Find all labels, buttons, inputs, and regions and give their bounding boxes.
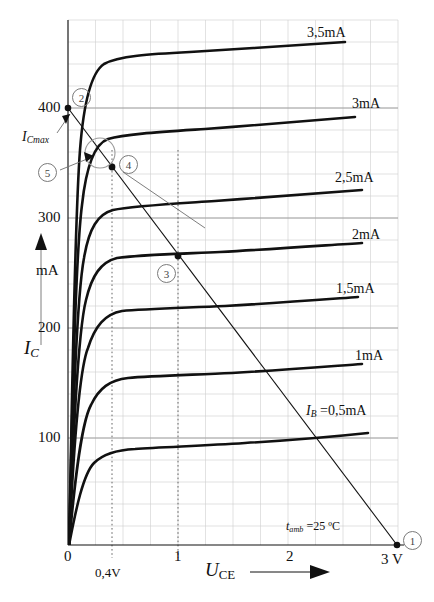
y-tick-300: 300 (38, 210, 61, 225)
y-axis-arrowhead (35, 233, 47, 250)
marker-dot-2 (65, 105, 72, 112)
callout-1[interactable]: 1 (403, 531, 422, 550)
curve-label-1.5mA: 1,5mA (336, 282, 375, 296)
y-tick-400: 400 (38, 100, 61, 115)
x-axis-symbol: UCE (205, 560, 235, 582)
arrowhead-icmax (62, 114, 70, 124)
callout-4[interactable]: 4 (119, 155, 138, 174)
x-tick-3V: 3 V (381, 552, 403, 567)
marker-dot-1 (394, 542, 401, 549)
highlight-circle-saturation (85, 138, 115, 168)
x-tick-1: 1 (174, 549, 182, 564)
x-axis-arrow-group (250, 565, 330, 579)
x-tick-0: 0 (64, 549, 72, 564)
y-tick-100: 100 (38, 430, 61, 445)
figure-root: 400 300 200 100 mA IC ICmax 0 0,4V 1 2 3… (0, 0, 434, 602)
y-tick-200: 200 (38, 320, 61, 335)
curve-group (69, 42, 368, 545)
curve-1mA (69, 364, 362, 545)
dotted-guides (112, 150, 178, 558)
curve-label-2mA: 2mA (352, 228, 380, 242)
leader-callout-4 (123, 172, 205, 228)
x-tick-2: 2 (286, 549, 294, 564)
callout-5[interactable]: 5 (38, 163, 57, 182)
marker-dot-3 (175, 253, 182, 260)
curve-label-2.5mA: 2,5mA (335, 171, 374, 185)
arrowhead-callout-5 (84, 152, 94, 162)
characteristic-curves-plot (0, 0, 434, 602)
y-axis-unit: mA (36, 263, 59, 278)
curve-label-3.5mA: 3,5mA (307, 26, 346, 40)
icmax-label: ICmax (22, 130, 49, 146)
curve-label-1mA: 1mA (355, 349, 383, 363)
ambient-temperature-label: tamb =25 ºC (286, 520, 340, 534)
y-axis-symbol: IC (24, 338, 39, 360)
curve-label-3mA: 3mA (352, 97, 380, 111)
callout-2[interactable]: 2 (72, 88, 91, 107)
x-tick-0.4V: 0,4V (95, 566, 121, 579)
callout-3[interactable]: 3 (157, 264, 176, 283)
x-axis-arrowhead (310, 565, 330, 579)
curve-label-0.5mA-ib: IB =0,5mA (306, 404, 366, 420)
